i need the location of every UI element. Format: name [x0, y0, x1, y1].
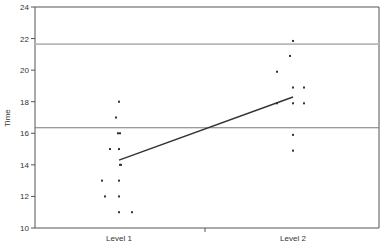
- data-point: [289, 55, 291, 57]
- y-tick-label: 24: [20, 3, 29, 12]
- data-point: [119, 132, 121, 134]
- x-category-label: Level 2: [280, 234, 306, 243]
- data-point: [120, 164, 122, 166]
- data-point: [292, 150, 294, 152]
- y-axis: 1012141618202224: [20, 3, 35, 233]
- y-tick-label: 12: [20, 192, 29, 201]
- y-tick-label: 16: [20, 129, 29, 138]
- data-point: [118, 195, 120, 197]
- data-point: [292, 102, 294, 104]
- y-tick-label: 14: [20, 161, 29, 170]
- x-category-label: Level 1: [106, 234, 132, 243]
- data-points: [101, 40, 305, 213]
- y-tick-label: 22: [20, 35, 29, 44]
- data-point: [292, 40, 294, 42]
- mean-line: [119, 97, 293, 160]
- reference-lines: [35, 44, 379, 128]
- data-point: [276, 71, 278, 73]
- y-tick-label: 18: [20, 98, 29, 107]
- data-point: [303, 87, 305, 89]
- data-point: [118, 180, 120, 182]
- data-point: [101, 180, 103, 182]
- mean-trend-line: [119, 97, 293, 160]
- data-point: [303, 102, 305, 104]
- data-point: [131, 211, 133, 213]
- data-point: [118, 211, 120, 213]
- data-point: [292, 134, 294, 136]
- data-point: [109, 148, 111, 150]
- y-axis-title: Time: [3, 109, 12, 127]
- data-point: [118, 148, 120, 150]
- data-point: [115, 117, 117, 119]
- x-axis: Level 1Level 2: [106, 228, 306, 243]
- data-point: [104, 195, 106, 197]
- data-point: [118, 101, 120, 103]
- data-point: [117, 132, 119, 134]
- plot-frame: [35, 7, 379, 228]
- chart: 1012141618202224 Level 1Level 2 Time: [0, 0, 383, 249]
- data-point: [292, 87, 294, 89]
- y-tick-label: 10: [20, 224, 29, 233]
- y-tick-label: 20: [20, 66, 29, 75]
